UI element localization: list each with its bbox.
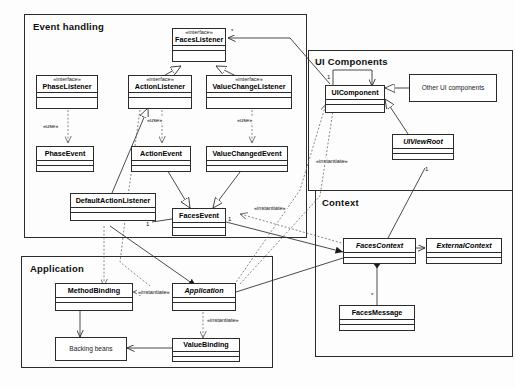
class-name: FacesContext (346, 242, 413, 250)
class-name: UIViewRoot (395, 138, 451, 146)
class-name: ExternalContext (429, 242, 499, 250)
class-action-listener[interactable]: «interface» ActionListener (128, 75, 192, 109)
multiplicity-faces-event-one: 1 (228, 216, 231, 222)
class-phase-event[interactable]: PhaseEvent (36, 146, 94, 172)
node-other-ui-components[interactable]: Other UI components (409, 74, 497, 102)
operations-compartment (37, 97, 97, 102)
class-header: ExternalContext (427, 239, 501, 252)
class-name: UIComponent (328, 89, 382, 97)
class-name: PhaseEvent (39, 150, 91, 158)
class-header: «interface» FacesListener (173, 29, 225, 45)
operations-compartment (132, 165, 190, 170)
operations-compartment (71, 212, 155, 217)
class-phase-listener[interactable]: «interface» PhaseListener (36, 75, 98, 109)
operations-compartment (427, 257, 501, 262)
class-name: FacesEvent (175, 212, 223, 220)
class-header: UIComponent (326, 86, 384, 99)
package-context (315, 190, 513, 357)
class-header: UIViewRoot (393, 135, 453, 148)
edge-label-use-valuechange: «use» (236, 117, 253, 123)
class-name: ValueChangeListener (209, 83, 289, 91)
edge-label-use-phase: «use» (42, 123, 59, 129)
operations-compartment (344, 257, 415, 262)
node-label: Other UI components (422, 84, 485, 91)
operations-compartment (173, 227, 225, 232)
operations-compartment (173, 302, 235, 307)
operations-compartment (129, 97, 191, 102)
operations-compartment (326, 104, 384, 109)
class-value-change-listener[interactable]: «interface» ValueChangeListener (206, 75, 292, 109)
package-event-handling-title: Event handling (33, 21, 104, 32)
package-ui-components (308, 50, 513, 191)
class-name: FacesListener (175, 36, 223, 44)
class-header: «interface» ValueChangeListener (207, 76, 291, 92)
class-value-binding[interactable]: ValueBinding (172, 338, 240, 362)
class-header: ActionEvent (132, 147, 190, 160)
class-faces-message[interactable]: FacesMessage (339, 305, 415, 331)
class-application[interactable]: Application (172, 283, 236, 311)
class-name: DefaultActionListener (73, 197, 153, 205)
operations-compartment (173, 50, 225, 55)
edge-label-instantiate-faces-event: «instantiate» (253, 205, 287, 211)
class-faces-context[interactable]: FacesContext (343, 238, 416, 264)
class-default-action-listener[interactable]: DefaultActionListener (70, 193, 156, 221)
class-header: PhaseEvent (37, 147, 93, 160)
multiplicity-faces-message-many: * (371, 292, 373, 298)
class-header: DefaultActionListener (71, 194, 155, 207)
class-name: ActionListener (131, 83, 189, 91)
edge-label-instantiate-value-binding: «instantiate» (206, 317, 240, 323)
operations-compartment (207, 165, 287, 170)
class-external-context[interactable]: ExternalContext (426, 238, 502, 264)
multiplicity-default-listener-one: 1 (146, 221, 149, 227)
package-application-title: Application (30, 263, 84, 274)
edge-label-instantiate-ui-component: «instantiate» (315, 158, 349, 164)
class-header: FacesEvent (173, 209, 225, 222)
class-method-binding[interactable]: MethodBinding (55, 283, 133, 311)
class-name: FacesMessage (342, 309, 412, 317)
class-faces-listener[interactable]: «interface» FacesListener (172, 28, 226, 62)
operations-compartment (37, 165, 93, 170)
edge-label-use-action: «use» (146, 117, 163, 123)
class-header: Application (173, 284, 235, 297)
operations-compartment (56, 302, 132, 307)
class-name: PhaseListener (39, 83, 95, 91)
class-header: FacesMessage (340, 306, 414, 319)
package-context-title: Context (322, 197, 359, 208)
multiplicity-ui-view-root-one: 1 (425, 166, 428, 172)
uml-diagram-canvas: Event handling UI Components Context App… (0, 0, 515, 389)
operations-compartment (393, 153, 453, 158)
operations-compartment (340, 324, 414, 329)
class-faces-event[interactable]: FacesEvent (172, 208, 226, 236)
node-backing-beans[interactable]: Backing beans (55, 337, 127, 361)
class-value-changed-event[interactable]: ValueChangedEvent (206, 146, 288, 172)
class-name: ActionEvent (134, 150, 188, 158)
edge-label-instantiate-method-binding: «instantiate» (137, 289, 171, 295)
class-action-event[interactable]: ActionEvent (131, 146, 191, 172)
class-name: ValueChangedEvent (209, 150, 285, 158)
class-name: ValueBinding (175, 341, 237, 349)
class-name: MethodBinding (58, 287, 130, 295)
class-ui-component[interactable]: UIComponent (325, 85, 385, 113)
class-name: Application (175, 287, 233, 295)
operations-compartment (207, 97, 291, 102)
class-header: «interface» ActionListener (129, 76, 191, 92)
class-header: «interface» PhaseListener (37, 76, 97, 92)
operations-compartment (173, 356, 239, 361)
multiplicity-faces-listener-many: * (231, 28, 233, 34)
class-header: MethodBinding (56, 284, 132, 297)
multiplicity-ui-component-many: * (350, 60, 352, 66)
node-label: Backing beans (69, 345, 112, 352)
multiplicity-ui-component-one: 1 (327, 74, 330, 80)
class-ui-view-root[interactable]: UIViewRoot (392, 134, 454, 160)
class-header: FacesContext (344, 239, 415, 252)
class-header: ValueChangedEvent (207, 147, 287, 160)
class-header: ValueBinding (173, 339, 239, 351)
